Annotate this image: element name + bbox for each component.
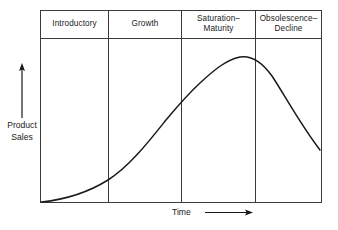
stage-header-obsolescence-decline: Obsolescence– Decline bbox=[256, 10, 321, 38]
y-axis-label-line-2: Sales bbox=[0, 131, 44, 143]
x-axis-arrow-icon bbox=[205, 210, 253, 216]
stage-divider-2 bbox=[181, 10, 182, 203]
product-life-cycle-figure: Introductory Growth Saturation– Maturity… bbox=[0, 0, 338, 230]
y-axis-label: Product Sales bbox=[0, 119, 44, 143]
y-axis-label-line-1: Product bbox=[0, 119, 44, 131]
stage-header-saturation-maturity: Saturation– Maturity bbox=[182, 10, 255, 38]
stage-header-introductory-line-1: Introductory bbox=[52, 19, 96, 29]
stage-header-introductory: Introductory bbox=[41, 10, 108, 38]
stage-header-growth-line-1: Growth bbox=[132, 19, 159, 29]
x-axis-label: Time bbox=[172, 206, 191, 218]
stage-divider-3 bbox=[255, 10, 256, 203]
stage-header-obsolescence-decline-line-1: Obsolescence– bbox=[260, 14, 318, 24]
stage-header-growth: Growth bbox=[109, 10, 181, 38]
stage-header-saturation-maturity-line-2: Maturity bbox=[204, 24, 234, 34]
y-axis-arrow-icon bbox=[19, 63, 25, 118]
stage-header-obsolescence-decline-line-2: Decline bbox=[274, 24, 302, 34]
stage-header-saturation-maturity-line-1: Saturation– bbox=[197, 14, 240, 24]
stage-divider-1 bbox=[108, 10, 109, 203]
